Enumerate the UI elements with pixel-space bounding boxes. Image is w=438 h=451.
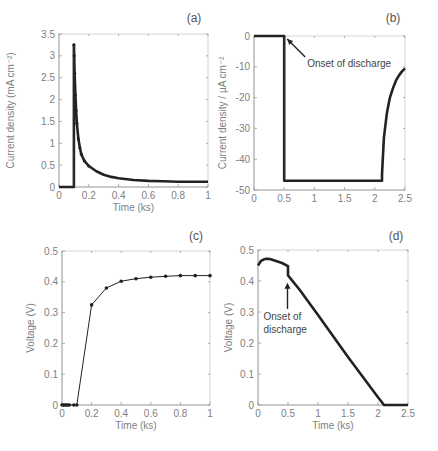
y-tick-label: 3 — [49, 50, 55, 61]
plot-frame — [59, 34, 208, 187]
data-marker — [75, 122, 78, 125]
y-tick-label: -10 — [236, 61, 251, 72]
y-tick-label: 0 — [52, 400, 58, 411]
data-marker — [105, 286, 109, 290]
x-tick-label: 0 — [251, 193, 257, 204]
data-marker — [77, 137, 80, 140]
y-axis-label: Current density / µA cm⁻² — [217, 56, 228, 169]
y-tick-label: 0 — [244, 31, 250, 42]
panel-b-current-density-discharge: 00.511.522.50-10-20-30-40-50Current dens… — [217, 11, 412, 204]
panel-d-voltage-discharge: 00.511.522.500.10.20.30.40.5Time (ks)Vol… — [223, 229, 415, 431]
data-marker — [80, 153, 83, 156]
data-series-line — [62, 276, 210, 405]
x-tick-label: 0.8 — [171, 190, 185, 201]
y-tick-label: 0.1 — [44, 369, 58, 380]
x-tick-label: 1 — [312, 193, 318, 204]
y-tick-label: 2.5 — [41, 72, 55, 83]
x-tick-label: 0.6 — [144, 408, 158, 419]
y-tick-label: 0.3 — [240, 307, 254, 318]
y-tick-label: 1 — [49, 138, 55, 149]
data-marker — [164, 274, 168, 278]
x-tick-label: 0.4 — [114, 408, 128, 419]
y-tick-label: 0.4 — [44, 276, 58, 287]
data-marker — [119, 279, 123, 283]
y-tick-label: 0.3 — [44, 307, 58, 318]
x-tick-label: 0.2 — [85, 408, 99, 419]
y-tick-label: 1.5 — [41, 116, 55, 127]
x-tick-label: 0.5 — [277, 193, 291, 204]
x-tick-label: 0 — [255, 408, 261, 419]
y-tick-label: -20 — [236, 92, 251, 103]
data-marker — [179, 274, 183, 278]
data-marker — [208, 274, 212, 278]
x-tick-label: 2.5 — [398, 193, 412, 204]
y-tick-label: 0 — [49, 182, 55, 193]
data-marker — [74, 94, 77, 97]
data-marker — [193, 274, 197, 278]
data-marker — [90, 303, 94, 307]
data-marker — [72, 43, 75, 46]
y-tick-label: 0.5 — [240, 245, 254, 256]
panel-label: (d) — [389, 229, 404, 243]
data-marker — [75, 403, 79, 407]
data-marker — [68, 403, 72, 407]
y-tick-label: 0.4 — [240, 276, 254, 287]
data-series-line — [59, 45, 208, 187]
panel-label: (b) — [386, 11, 401, 25]
annotation-onset-of: Onset of — [264, 311, 302, 322]
x-tick-label: 1 — [315, 408, 321, 419]
x-tick-label: 0.2 — [82, 190, 96, 201]
x-tick-label: 2 — [372, 193, 378, 204]
y-tick-label: 2 — [49, 94, 55, 105]
x-tick-label: 0.8 — [173, 408, 187, 419]
x-axis-label: Time (ks) — [115, 420, 156, 431]
y-tick-label: 0.2 — [44, 338, 58, 349]
y-tick-label: 0.5 — [41, 160, 55, 171]
data-marker — [78, 146, 81, 149]
y-tick-label: -50 — [236, 185, 251, 196]
y-axis-label: Voltage (V) — [25, 303, 36, 352]
data-marker — [149, 275, 153, 279]
x-tick-label: 2.5 — [401, 408, 415, 419]
x-tick-label: 0.5 — [281, 408, 295, 419]
x-tick-label: 1 — [205, 190, 211, 201]
x-tick-label: 1 — [207, 408, 213, 419]
y-tick-label: -40 — [236, 154, 251, 165]
data-marker — [73, 72, 76, 75]
data-marker — [83, 159, 86, 162]
x-tick-label: 0.6 — [141, 190, 155, 201]
data-marker — [87, 164, 90, 167]
x-axis-label: Time (ks) — [312, 420, 353, 431]
x-tick-label: 0 — [56, 190, 62, 201]
x-tick-label: 0.4 — [112, 190, 126, 201]
annotation-discharge: discharge — [264, 324, 308, 335]
panel-label: (a) — [187, 11, 202, 25]
data-marker — [75, 109, 78, 112]
data-marker — [134, 277, 138, 281]
x-tick-label: 1.5 — [341, 408, 355, 419]
panel-c-voltage-charging: 00.20.40.60.8100.10.20.30.40.5Time (ks)V… — [25, 229, 213, 431]
annotation-onset-of-discharge: Onset of discharge — [307, 58, 391, 69]
y-tick-label: 0 — [248, 400, 254, 411]
chart-canvas: 00.20.40.60.8100.511.522.533.5Time (ks)C… — [0, 0, 438, 451]
plot-frame — [62, 251, 210, 405]
x-tick-label: 0 — [59, 408, 65, 419]
y-tick-label: 3.5 — [41, 29, 55, 40]
x-axis-label: Time (ks) — [113, 202, 154, 213]
y-tick-label: 0.5 — [44, 246, 58, 257]
y-tick-label: -30 — [236, 123, 251, 134]
y-axis-label: Voltage (V) — [223, 303, 234, 352]
data-marker — [73, 54, 76, 57]
y-tick-label: 0.1 — [240, 369, 254, 380]
y-tick-label: 0.2 — [240, 338, 254, 349]
figure: 00.20.40.60.8100.511.522.533.5Time (ks)C… — [0, 0, 438, 451]
panel-label: (c) — [189, 229, 203, 243]
arrow-head-icon — [285, 283, 291, 289]
x-tick-label: 2 — [375, 408, 381, 419]
y-axis-label: Current density (mA cm⁻²) — [5, 52, 16, 168]
x-tick-label: 1.5 — [338, 193, 352, 204]
panel-a-current-density-charging: 00.20.40.60.8100.511.522.533.5Time (ks)C… — [5, 11, 211, 213]
